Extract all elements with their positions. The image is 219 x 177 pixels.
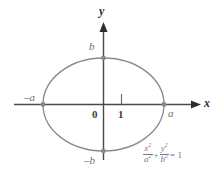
y-axis-label: y [99,5,104,17]
term2-denominator: b2 [160,155,170,164]
ellipse-diagram-canvas [0,0,219,177]
vertex-marker-top [101,56,106,61]
equation-plus-operator: + [153,151,160,160]
unit-tick-label: 1 [118,109,124,120]
equation-term-1: x2 a2 [143,144,153,165]
equation-right-hand-side: = 1 [169,151,182,160]
term2-numerator: y2 [160,144,169,153]
x-axis-arrowhead [191,101,201,109]
term2-denominator-exponent: 2 [165,153,168,159]
ellipse-equation: x2 a2 + y2 b2 = 1 [143,144,182,165]
term1-denominator: a2 [143,155,153,164]
term1-numerator-exponent: 2 [148,142,151,148]
term1-numerator: x2 [143,144,152,153]
equation-term-2: y2 b2 [160,144,170,165]
right-vertex-label: a [168,108,174,119]
x-axis-label: x [204,97,210,109]
term1-denominator-exponent: 2 [149,153,152,159]
vertex-marker-right [162,102,167,107]
ellipse-figure: y x 0 1 a –a b –b x2 a2 + y2 b2 = 1 [0,0,219,177]
left-vertex-label: –a [24,92,35,103]
y-axis-arrowhead [100,22,108,32]
term2-numerator-exponent: 2 [165,142,168,148]
top-vertex-label: b [89,41,95,52]
vertex-marker-left [41,102,46,107]
vertex-marker-bottom [101,149,106,154]
origin-label: 0 [92,109,98,120]
bottom-vertex-label: –b [84,155,95,166]
